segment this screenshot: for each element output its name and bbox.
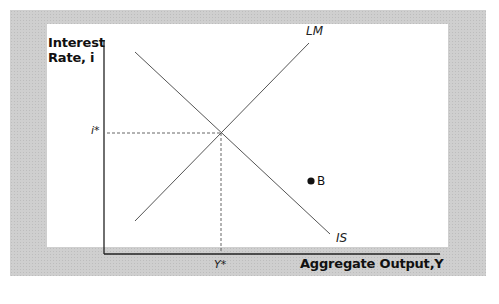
y-axis-label-line1: Interest (48, 35, 105, 50)
lm-curve (135, 43, 309, 221)
y-axis-label-line2: Rate, i (48, 50, 105, 65)
x-axis-label: Aggregate Output,Y (300, 256, 444, 271)
y-axis-label: Interest Rate, i (48, 35, 105, 65)
point-b-marker (307, 177, 314, 184)
is-label: IS (336, 231, 347, 245)
i-star-label: i* (91, 124, 100, 137)
lm-label: LM (306, 24, 323, 38)
is-curve (135, 52, 330, 234)
point-b-label: B (317, 174, 325, 188)
y-star-label: Y* (214, 258, 226, 271)
